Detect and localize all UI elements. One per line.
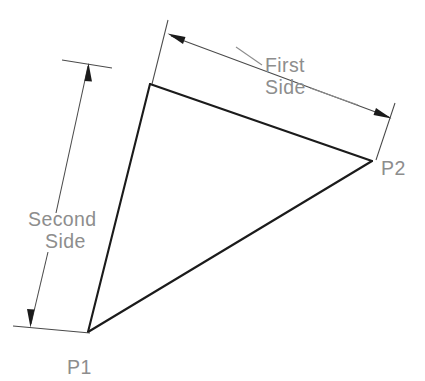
second-side-label-line2: Side xyxy=(45,230,86,252)
first-side-dimension: First Side xyxy=(152,20,395,160)
triangle-edge-p2-to-p1 xyxy=(88,161,372,332)
first-side-leader-left xyxy=(236,47,262,65)
triangle-dimension-drawing: First Side Second Side P1 P2 xyxy=(0,0,425,381)
second-side-arrow-bottom xyxy=(27,309,35,328)
first-side-label-line1: First xyxy=(265,54,305,76)
diagram-canvas: First Side Second Side P1 P2 xyxy=(0,0,425,381)
second-side-label-line1: Second xyxy=(28,208,97,230)
first-side-arrow-left xyxy=(168,34,186,45)
first-side-label-line2: Side xyxy=(265,76,306,98)
first-side-extension-line-left xyxy=(152,20,168,84)
first-side-leader-right xyxy=(310,88,358,105)
second-side-extension-line-bottom xyxy=(13,326,90,333)
vertex-label-p1: P1 xyxy=(67,356,92,378)
second-side-arrow-top xyxy=(85,63,93,82)
first-side-arrow-right xyxy=(374,108,392,119)
triangle-shape xyxy=(88,84,372,332)
vertex-label-p2: P2 xyxy=(381,157,406,179)
second-side-extension-line-top xyxy=(62,60,112,68)
triangle-edge-apex-to-p2 xyxy=(150,84,372,161)
second-side-dimension-line xyxy=(56,66,88,213)
triangle-edge-p1-to-apex xyxy=(88,84,150,332)
